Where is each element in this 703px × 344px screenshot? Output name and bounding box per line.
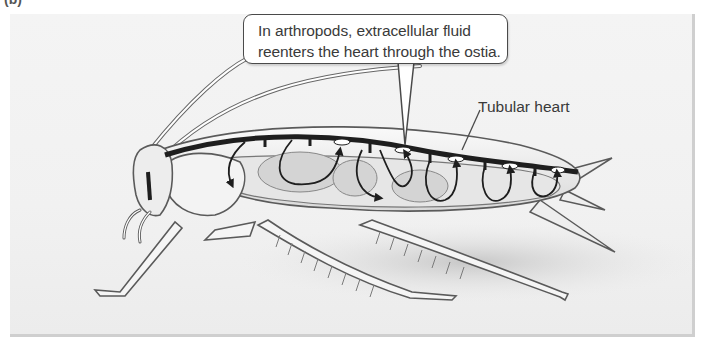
callout-line-2: reenters the heart through the ostia.: [258, 41, 497, 62]
callout-box: In arthropods, extracellular fluid reent…: [243, 14, 508, 64]
callout-line-1: In arthropods, extracellular fluid: [258, 20, 497, 41]
thorax: [165, 153, 245, 215]
tubular-heart-label: Tubular heart: [478, 98, 570, 116]
